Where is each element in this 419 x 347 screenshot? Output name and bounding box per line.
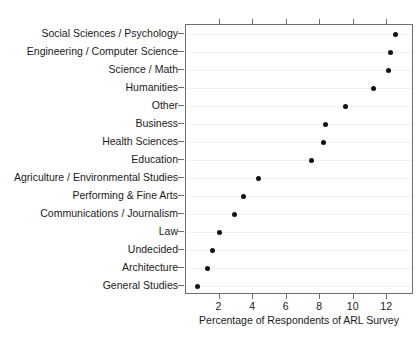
data-point	[210, 248, 215, 253]
gridline	[186, 34, 412, 35]
y-axis-category-labels: Social Sciences / PsychologyEngineering …	[0, 24, 178, 294]
data-point	[241, 194, 246, 199]
plot-panel	[185, 24, 413, 294]
y-axis-label: Humanities	[125, 82, 178, 92]
data-point	[309, 158, 314, 163]
data-point	[217, 230, 222, 235]
y-axis-tick	[178, 33, 184, 34]
y-axis-tick	[178, 177, 184, 178]
gridline	[186, 160, 412, 161]
gridline	[186, 214, 412, 215]
gridline	[186, 268, 412, 269]
data-point	[232, 212, 237, 217]
y-axis-tick	[178, 87, 184, 88]
data-point	[388, 50, 393, 55]
data-point	[393, 32, 398, 37]
x-axis-tick-label: 6	[283, 300, 289, 312]
gridline	[186, 250, 412, 251]
gridline	[186, 196, 412, 197]
chart-figure: Social Sciences / PsychologyEngineering …	[0, 0, 419, 347]
gridline	[186, 52, 412, 53]
x-axis-tick-label: 12	[380, 300, 392, 312]
y-axis-tick	[178, 69, 184, 70]
x-axis-top-tick	[353, 19, 354, 24]
data-point	[323, 122, 328, 127]
x-axis-top-tick	[252, 19, 253, 24]
gridline	[186, 286, 412, 287]
y-axis-tick	[178, 231, 184, 232]
x-axis-tick	[252, 294, 253, 299]
x-axis-tick	[286, 294, 287, 299]
data-point	[205, 266, 210, 271]
data-point	[256, 176, 261, 181]
x-axis-top-tick	[219, 19, 220, 24]
y-axis-label: Business	[135, 118, 178, 128]
x-axis-ticks: 24681012	[185, 294, 413, 316]
y-axis-label: Engineering / Computer Science	[27, 46, 178, 56]
x-axis-top-tick	[286, 19, 287, 24]
gridline	[186, 142, 412, 143]
x-axis-tick	[219, 294, 220, 299]
y-axis-label: Education	[131, 154, 178, 164]
y-axis-tick	[178, 267, 184, 268]
y-axis-label: Law	[159, 226, 178, 236]
x-axis-tick	[353, 294, 354, 299]
y-axis-tick	[178, 285, 184, 286]
y-axis-label: Architecture	[122, 262, 178, 272]
y-axis-label: General Studies	[103, 280, 178, 290]
y-axis-tick	[178, 213, 184, 214]
gridline	[186, 70, 412, 71]
x-axis-tick-label: 2	[216, 300, 222, 312]
x-axis-top-ticks	[185, 19, 413, 24]
x-axis-title: Percentage of Respondents of ARL Survey	[185, 314, 413, 326]
y-axis-tick	[178, 195, 184, 196]
y-axis-label: Social Sciences / Psychology	[41, 28, 178, 38]
x-axis-tick	[386, 294, 387, 299]
y-axis-label: Communications / Journalism	[40, 208, 178, 218]
y-axis-label: Undecided	[128, 244, 178, 254]
y-axis-tick	[178, 141, 184, 142]
y-axis-tick	[178, 123, 184, 124]
data-point	[343, 104, 348, 109]
gridline	[186, 106, 412, 107]
y-axis-label: Science / Math	[109, 64, 178, 74]
data-point	[195, 284, 200, 289]
x-axis-tick	[319, 294, 320, 299]
y-axis-label: Performing & Fine Arts	[72, 190, 178, 200]
y-axis-tick	[178, 249, 184, 250]
y-axis-tick	[178, 159, 184, 160]
y-axis-label: Health Sciences	[102, 136, 178, 146]
x-axis-top-tick	[319, 19, 320, 24]
y-axis-tick	[178, 105, 184, 106]
data-point	[386, 68, 391, 73]
x-axis-top-tick	[386, 19, 387, 24]
data-point	[321, 140, 326, 145]
y-axis-tick	[178, 51, 184, 52]
y-axis-label: Other	[152, 100, 178, 110]
x-axis-tick-label: 10	[347, 300, 359, 312]
x-axis-tick-label: 8	[316, 300, 322, 312]
gridline	[186, 124, 412, 125]
gridline	[186, 88, 412, 89]
data-point	[371, 86, 376, 91]
y-axis-label: Agriculture / Environmental Studies	[14, 172, 178, 182]
gridline	[186, 178, 412, 179]
x-axis-tick-label: 4	[249, 300, 255, 312]
